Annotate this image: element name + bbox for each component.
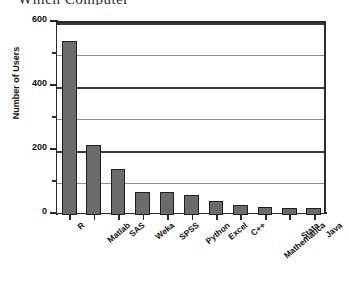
x-tick-weka xyxy=(143,214,145,220)
bar-weka xyxy=(135,192,150,215)
y-tick-400 xyxy=(50,84,57,86)
y-axis-label: Number of Users xyxy=(11,43,21,123)
y-tick-600 xyxy=(50,20,57,22)
gridline-minor-500 xyxy=(57,55,324,56)
x-tick-excel xyxy=(216,214,218,220)
x-axis-label-r: R xyxy=(76,220,87,232)
bar-excel xyxy=(209,201,224,215)
y-tick-label-0: 0 xyxy=(42,206,47,216)
x-tick-r xyxy=(69,214,71,220)
y-tick-label-200: 200 xyxy=(32,142,47,152)
x-tick-python xyxy=(192,214,194,220)
y-tick-200 xyxy=(50,148,57,150)
x-tick-sas xyxy=(118,214,120,220)
bar-sas xyxy=(111,169,126,215)
x-tick-mathematica xyxy=(265,214,267,220)
x-axis-label-sas: SAS xyxy=(127,220,147,239)
gridline-major-400 xyxy=(57,87,324,89)
y-tick-minor-500 xyxy=(52,52,57,54)
y-tick-minor-300 xyxy=(52,116,57,118)
x-tick-spss xyxy=(167,214,169,220)
bar-python xyxy=(184,195,199,215)
bar-matlab xyxy=(86,145,101,215)
y-tick-0 xyxy=(50,212,57,214)
x-axis-label-java: Java xyxy=(323,220,344,240)
x-axis-label-weka: Weka xyxy=(153,220,176,242)
gridline-minor-300 xyxy=(57,119,324,120)
x-axis-label-cpp: C++ xyxy=(249,220,268,238)
y-tick-label-400: 400 xyxy=(32,78,47,88)
plot-area xyxy=(57,21,326,213)
x-axis-label-spss: SPSS xyxy=(177,220,201,242)
gridline-major-600 xyxy=(57,23,324,25)
x-tick-matlab xyxy=(94,214,96,220)
y-tick-label-600: 600 xyxy=(32,14,47,24)
bar-r xyxy=(62,41,77,215)
x-tick-stata xyxy=(289,214,291,220)
x-axis-label-excel: Excel xyxy=(226,220,249,242)
bar-chart-figure: Number of Users 0200400600 RMatlabSASWek… xyxy=(0,0,349,282)
y-tick-minor-100 xyxy=(52,180,57,182)
bar-spss xyxy=(160,192,175,215)
